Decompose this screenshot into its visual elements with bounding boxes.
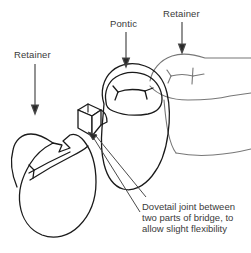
arrow-retainer-right-head: [179, 44, 186, 53]
dental-bridge-figure: Retainer Pontic Retainer Dovetail joint …: [0, 0, 251, 253]
label-retainer-left: Retainer: [14, 49, 51, 60]
caption-leader-lines: [88, 132, 146, 212]
caption-line-2: two parts of bridge, to: [142, 212, 235, 223]
label-pontic: Pontic: [110, 18, 137, 29]
fissure-right-3: [192, 68, 193, 84]
fissure-pontic-5: [115, 92, 118, 100]
label-retainer-right: Retainer: [163, 8, 200, 19]
fissure-pontic-1: [118, 90, 145, 92]
fissure-pontic-4: [113, 86, 118, 92]
caption-line-1: Dovetail joint between: [142, 201, 235, 212]
fissure-right-1: [171, 75, 193, 77]
fissure-pontic-2: [145, 88, 153, 91]
arrow-retainer-left-head: [32, 105, 39, 114]
fissure-right-2: [193, 74, 204, 76]
retainer-right-tooth: [150, 54, 251, 155]
fissure-left-2: [29, 152, 70, 173]
fissure-pontic-3: [145, 91, 147, 99]
caption-arrow-head: [88, 132, 97, 140]
dovetail-joint-caption: Dovetail joint between two parts of brid…: [142, 201, 235, 235]
retainer-left-tooth: [12, 134, 96, 237]
pontic-tooth: [101, 64, 169, 190]
fissure-right-5: [168, 76, 171, 83]
fissure-left-3: [29, 165, 34, 170]
caption-leader-1: [93, 137, 140, 212]
arrow-pontic-head: [123, 58, 130, 67]
fissure-right-4: [167, 70, 171, 76]
caption-line-3: allow slight flexibility: [142, 223, 235, 234]
